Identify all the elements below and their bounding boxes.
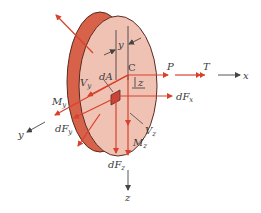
label-dFy: dFy [55, 123, 73, 136]
label-z-dim: z [137, 77, 144, 88]
label-dFx: dFx [176, 91, 193, 104]
label-P: P [166, 61, 174, 72]
label-My: My [51, 96, 67, 109]
y-axis-arrow [27, 122, 45, 132]
label-dA: dA [99, 71, 113, 82]
label-Vz: Vz [145, 125, 156, 138]
label-centroid-C: C [128, 62, 136, 73]
label-y-axis: y [17, 129, 24, 140]
label-T: T [203, 61, 211, 72]
label-x-axis: x [243, 70, 249, 81]
label-dFz: dFz [108, 159, 125, 172]
cross-section-diagram: y dA C z P T x dFx Vy My dFy y Vz Mz dFz… [0, 0, 261, 213]
label-y-dim: y [117, 39, 124, 50]
label-z-axis: z [124, 192, 131, 203]
